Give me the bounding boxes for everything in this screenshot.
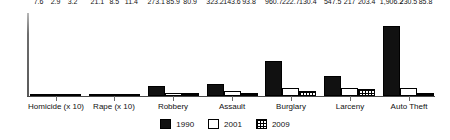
legend-item-2009[interactable]: 2009 [256,119,290,129]
bar-column: 273.1 [148,6,165,96]
bar-2009 [64,94,81,96]
bar-column: 217 [341,6,358,96]
bar-2009 [299,91,316,96]
bar-value-label: 93.8 [242,0,256,6]
bar-column: 11.4 [123,6,140,96]
legend-label: 2001 [224,120,242,129]
category-label: Burglary [276,102,306,112]
bar-2001 [341,88,358,96]
category-label: Rape (x 10) [93,102,135,112]
bar-column: 2.9 [47,6,64,96]
legend-label: 1990 [176,120,194,129]
bar-column: 80.9 [182,6,199,96]
bar-2001 [282,88,299,96]
bar-group: 547.5217203.4 [324,6,375,96]
bar-column: 960.7 [265,6,282,96]
bar-1990 [383,26,400,96]
solid-black-swatch [160,119,171,129]
bar-1990 [148,86,165,96]
bar-column: 93.8 [241,6,258,96]
bar-column: 8.5 [106,6,123,96]
bar-column: 222.7 [282,6,299,96]
bar-2009 [123,94,140,96]
bar-group: 1,906.2230.585.8 [383,6,434,96]
bar-2009 [417,93,434,96]
x-axis-tick [409,96,410,101]
bar-group: 7.62.93.2 [30,6,81,96]
bar-1990 [30,94,47,96]
bar-column: 130.4 [299,6,316,96]
category-label: Assault [219,102,245,112]
bar-value-label: 547.5 [324,0,342,6]
bar-value-label: 8.5 [109,0,119,6]
chart-legend: 199020012009 [0,119,450,129]
bar-2009 [182,93,199,96]
x-axis-tick [350,96,351,101]
bar-column: 7.6 [30,6,47,96]
bar-group: 323.2143.693.8 [207,6,258,96]
x-axis-tick [232,96,233,101]
bar-column: 1,906.2 [383,6,400,96]
bar-value-label: 21.1 [91,0,105,6]
bar-group: 273.185.980.9 [148,6,199,96]
legend-item-2001[interactable]: 2001 [208,119,242,129]
empty-white-swatch [208,119,219,129]
bar-column: 203.4 [358,6,375,96]
x-axis-tick [173,96,174,101]
grid-pattern-swatch [256,119,267,129]
category-label: Robbery [158,102,188,112]
x-axis-tick [291,96,292,101]
bar-group: 960.7222.7130.4 [265,6,316,96]
bar-column: 230.5 [400,6,417,96]
bar-value-label: 7.6 [34,0,44,6]
y-axis-line [27,13,29,97]
plot-area: 7.62.93.221.18.511.4273.185.980.9323.214… [0,0,450,103]
x-axis-baseline [27,96,435,97]
bar-value-label: 2.9 [51,0,61,6]
bar-value-label: 130.4 [299,0,317,6]
bar-column: 323.2 [207,6,224,96]
bar-value-label: 273.1 [147,0,165,6]
bar-value-label: 323.2 [206,0,224,6]
bar-value-label: 80.9 [183,0,197,6]
bar-column: 547.5 [324,6,341,96]
bar-column: 3.2 [64,6,81,96]
x-axis-tick [114,96,115,101]
bar-column: 143.6 [224,6,241,96]
bar-2009 [241,93,258,96]
bar-group: 21.18.511.4 [89,6,140,96]
bar-1990 [89,94,106,96]
bar-value-label: 143.6 [223,0,241,6]
grouped-bar-chart: 7.62.93.221.18.511.4273.185.980.9323.214… [0,0,450,140]
bar-value-label: 230.5 [400,0,418,6]
bar-1990 [265,61,282,96]
legend-label: 2009 [272,120,290,129]
bar-column: 85.9 [165,6,182,96]
bar-value-label: 217 [344,0,356,6]
bar-column: 21.1 [89,6,106,96]
bar-value-label: 11.4 [125,0,138,6]
category-label: Homicide (x 10) [28,102,84,112]
bar-column: 85.8 [417,6,434,96]
bar-1990 [324,76,341,96]
legend-item-1990[interactable]: 1990 [160,119,194,129]
bar-2009 [358,89,375,96]
x-axis-tick [56,96,57,101]
bar-value-label: 222.7 [282,0,300,6]
bar-2001 [400,88,417,96]
category-label: Auto Theft [391,102,428,112]
category-label: Larceny [336,102,364,112]
bar-value-label: 85.9 [166,0,180,6]
bar-value-label: 3.2 [68,0,78,6]
bar-value-label: 85.8 [419,0,433,6]
bar-1990 [207,84,224,96]
bar-value-label: 203.4 [358,0,376,6]
bar-value-label: 960.7 [265,0,283,6]
